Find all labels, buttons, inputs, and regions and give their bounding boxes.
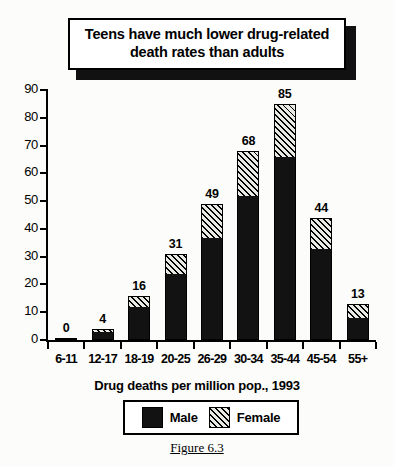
x-tick-7: [302, 342, 304, 349]
bar-segment-female: [166, 255, 186, 274]
legend-label-male: Male: [170, 410, 198, 425]
y-tick-label-20: 20: [0, 275, 38, 290]
bar-segment-female: [202, 205, 222, 238]
bar-segment-female: [238, 152, 258, 196]
bar-value-label-6-11: 0: [46, 321, 86, 335]
bar-value-label-26-29: 49: [192, 187, 232, 201]
bar-value-label-30-34: 68: [228, 134, 268, 148]
y-tick-60: [40, 172, 48, 174]
bar-value-label-20-25: 31: [156, 237, 196, 251]
chart-legend: Male Female: [123, 400, 299, 435]
y-tick-label-70: 70: [0, 137, 38, 152]
y-tick-0: [40, 339, 48, 341]
y-tick-70: [40, 145, 48, 147]
bar-segment-male: [275, 157, 295, 339]
y-tick-label-90: 90: [0, 81, 38, 96]
x-tick-1: [83, 342, 85, 349]
bar-segment-female: [348, 305, 368, 318]
y-tick-label-50: 50: [0, 192, 38, 207]
legend-item-female: Female: [209, 407, 281, 428]
bar-20-25: [165, 254, 187, 340]
bar-value-label-18-19: 16: [119, 279, 159, 293]
bar-value-label-35-44: 85: [265, 87, 305, 101]
table-row: [55, 338, 77, 340]
legend-label-female: Female: [237, 410, 281, 425]
y-tick-40: [40, 228, 48, 230]
y-tick-label-0: 0: [0, 331, 38, 346]
figure-caption: Figure 6.3: [0, 440, 394, 456]
bar-12-17: [92, 329, 114, 340]
y-tick-label-80: 80: [0, 109, 38, 124]
x-tick-3: [156, 342, 158, 349]
x-tick-0: [47, 342, 49, 349]
y-tick-90: [40, 89, 48, 91]
page-title: Teens have much lower drug-related death…: [70, 26, 344, 61]
bar-segment-male: [166, 274, 186, 339]
x-tick-4: [193, 342, 195, 349]
y-tick-label-40: 40: [0, 220, 38, 235]
chart-title-box: Teens have much lower drug-related death…: [68, 18, 346, 70]
solid-black-swatch-icon: [142, 407, 163, 428]
bar-26-29: [201, 204, 223, 340]
y-tick-30: [40, 256, 48, 258]
y-axis-line: [46, 90, 48, 342]
x-tick-5: [229, 342, 231, 349]
chart-page: Teens have much lower drug-related death…: [0, 0, 394, 466]
legend-item-male: Male: [142, 407, 198, 428]
bar-segment-female: [311, 219, 331, 249]
x-tick-8: [339, 342, 341, 349]
x-tick-9: [375, 342, 377, 349]
bar-segment-male: [93, 332, 113, 339]
x-tick-2: [120, 342, 122, 349]
bar-45-54: [310, 218, 332, 340]
x-axis-title: Drug deaths per million pop., 1993: [0, 378, 394, 393]
bar-35-44: [274, 104, 296, 340]
bar-segment-male: [202, 238, 222, 339]
y-tick-label-60: 60: [0, 164, 38, 179]
y-tick-10: [40, 311, 48, 313]
y-tick-label-10: 10: [0, 303, 38, 318]
bar-segment-male: [238, 196, 258, 339]
bar-55+: [347, 304, 369, 340]
y-tick-50: [40, 200, 48, 202]
bar-segment-male: [129, 307, 149, 339]
y-tick-label-30: 30: [0, 248, 38, 263]
x-axis-label-55+: 55+: [334, 352, 382, 366]
bar-value-label-12-17: 4: [83, 312, 123, 326]
bar-segment-female: [275, 105, 295, 157]
bar-value-label-45-54: 44: [301, 201, 341, 215]
y-tick-20: [40, 283, 48, 285]
diagonal-hatch-swatch-icon: [209, 407, 230, 428]
x-axis-line: [46, 340, 376, 342]
bar-segment-female: [129, 297, 149, 308]
bar-value-label-55+: 13: [338, 287, 378, 301]
x-tick-6: [266, 342, 268, 349]
bar-18-19: [128, 296, 150, 340]
plot-area: 0102030405060708090 6-1112-1718-1920-252…: [0, 84, 394, 346]
bar-30-34: [237, 151, 259, 340]
bar-segment-male: [348, 318, 368, 339]
y-tick-80: [40, 117, 48, 119]
bar-segment-male: [311, 249, 331, 339]
